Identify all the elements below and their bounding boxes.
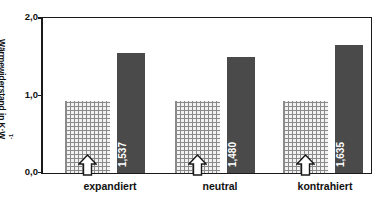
thermal-resistance-bar-chart: Wärmewiderstand in K·W-1 2,0 1,0 0,0 1,5… bbox=[0, 0, 376, 200]
axis-tick-1 bbox=[38, 95, 43, 96]
plot-frame: 1,537 1,480 bbox=[41, 17, 372, 174]
arrow-up-icon-expandiert bbox=[78, 154, 97, 176]
bar-dark-kontrahiert: 1,635 bbox=[335, 45, 363, 173]
bar-group-neutral: 1,480 bbox=[161, 18, 261, 173]
bar-dark-neutral: 1,480 bbox=[227, 57, 255, 173]
category-label-neutral: neutral bbox=[165, 180, 275, 192]
y-axis-tick-labels: 2,0 1,0 0,0 bbox=[14, 0, 38, 200]
bar-value-neutral: 1,480 bbox=[227, 142, 255, 167]
arrow-up-icon-neutral bbox=[188, 154, 207, 176]
axis-tick-0 bbox=[38, 172, 43, 173]
bar-value-kontrahiert: 1,635 bbox=[335, 142, 363, 167]
arrow-up-icon-kontrahiert bbox=[296, 154, 315, 176]
bar-value-expandiert: 1,537 bbox=[117, 142, 145, 167]
bar-dark-expandiert: 1,537 bbox=[117, 53, 145, 174]
y-tick-label-1: 1,0 bbox=[16, 90, 38, 100]
y-tick-label-0: 0,0 bbox=[16, 167, 38, 177]
y-tick-label-2: 2,0 bbox=[16, 12, 38, 22]
bar-group-expandiert: 1,537 bbox=[51, 18, 151, 173]
bar-group-kontrahiert: 1,635 bbox=[269, 18, 369, 173]
plot-area: 1,537 1,480 bbox=[43, 18, 371, 173]
y-axis-title-main: Wärmewiderstand in K·W bbox=[0, 39, 7, 139]
category-label-kontrahiert: kontrahiert bbox=[270, 180, 376, 192]
category-label-expandiert: expandiert bbox=[55, 180, 165, 192]
axis-tick-2 bbox=[38, 17, 43, 18]
